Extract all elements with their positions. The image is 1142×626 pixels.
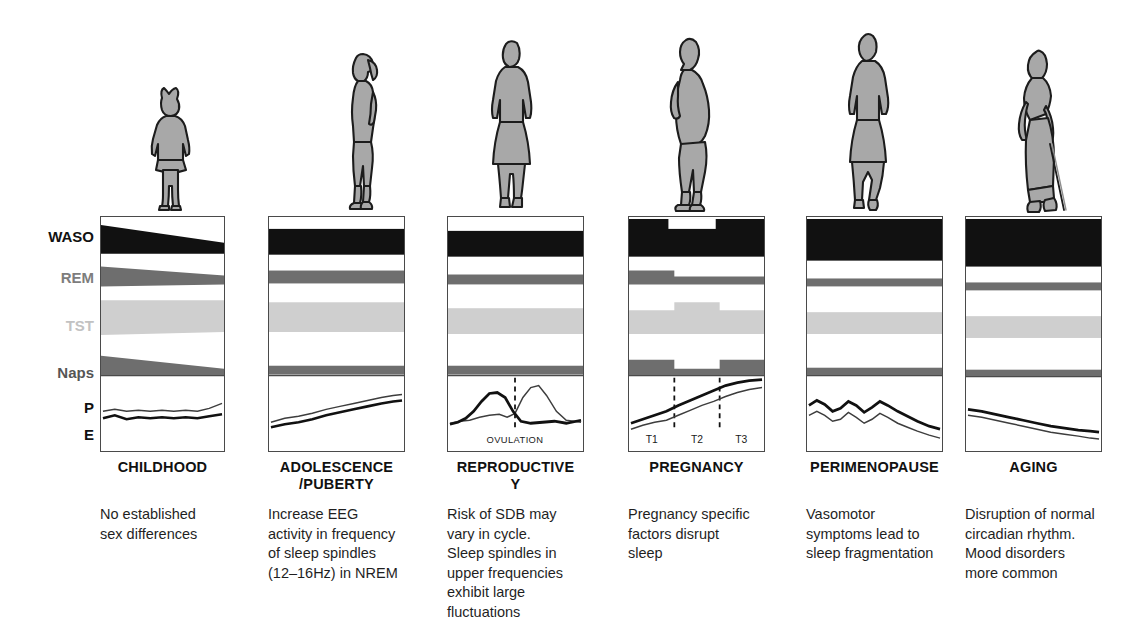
row-label-naps: Naps	[16, 365, 94, 380]
stage-title-reproductive: REPRODUCTIVEY	[443, 459, 588, 493]
stage-caption-reproductive: Risk of SDB mayvary in cycle.Sleep spind…	[447, 505, 607, 622]
silhouette-mature-woman-walking	[832, 22, 904, 214]
band-naps	[269, 366, 404, 375]
band-rem	[966, 282, 1101, 290]
stage-caption-aging: Disruption of normalcircadian rhythm.Moo…	[965, 505, 1130, 583]
band-naps	[807, 368, 942, 376]
panel-adolescence	[268, 216, 405, 452]
band-tst	[966, 316, 1101, 338]
stage-caption-perimenopause: Vasomotorsymptoms lead tosleep fragmenta…	[806, 505, 966, 564]
silhouette-girl-child-dress	[136, 82, 206, 212]
panel-reproductive: OVULATION	[447, 216, 584, 452]
stage-title-pregnancy: PREGNANCY	[624, 459, 769, 476]
lifespan-sleep-figure: WASO REM TST Naps P E	[0, 0, 1142, 626]
panel-childhood	[100, 216, 225, 452]
band-naps	[101, 356, 224, 376]
band-tst	[448, 308, 583, 334]
curve-estrogen	[968, 415, 1099, 439]
panel-aging	[965, 216, 1102, 452]
annotation-t2: T2	[691, 434, 703, 445]
curve-progesterone	[631, 380, 762, 424]
band-waso	[966, 219, 1101, 267]
curve-progesterone	[103, 414, 222, 419]
silhouette-adult-woman-dress	[476, 30, 548, 212]
stage-title-perimenopause: PERIMENOPAUSE	[800, 459, 949, 476]
band-tst	[807, 312, 942, 334]
curve-progesterone	[809, 400, 940, 429]
panel-perimenopause	[806, 216, 943, 452]
curve-estrogen	[809, 411, 940, 438]
annotation-t3: T3	[735, 434, 747, 445]
annotation-ovulation: OVULATION	[487, 434, 544, 445]
stage-title-childhood: CHILDHOOD	[96, 459, 229, 476]
stage-title-aging: AGING	[961, 459, 1106, 476]
band-rem	[269, 271, 404, 284]
band-waso	[101, 225, 224, 254]
band-rem	[101, 267, 224, 287]
band-naps	[629, 360, 764, 376]
row-label-waso: WASO	[16, 229, 94, 244]
stage-caption-adolescence: Increase EEGactivity in frequencyof slee…	[268, 505, 428, 583]
stage-title-adolescence: ADOLESCENCE/PUBERTY	[264, 459, 409, 493]
silhouette-elderly-woman-cane	[1006, 40, 1082, 216]
curve-estrogen	[631, 388, 762, 430]
band-waso	[807, 219, 942, 261]
band-naps	[966, 370, 1101, 377]
stage-caption-pregnancy: Pregnancy specificfactors disruptsleep	[628, 505, 788, 564]
annotation-t1: T1	[646, 434, 658, 445]
band-naps	[448, 366, 583, 375]
band-tst	[629, 302, 764, 334]
silhouette-pregnant-woman-profile	[656, 26, 726, 214]
band-tst	[101, 300, 224, 335]
band-rem	[807, 278, 942, 286]
stage-caption-childhood: No establishedsex differences	[100, 505, 240, 544]
band-waso	[269, 229, 404, 255]
panel-pregnancy: T1 T2 T3	[628, 216, 765, 452]
curve-estrogen	[271, 394, 402, 422]
silhouette-teen-girl-profile	[330, 46, 392, 212]
band-tst	[269, 302, 404, 332]
row-label-rem: REM	[16, 270, 94, 285]
row-label-tst: TST	[16, 318, 94, 333]
curve-estrogen	[103, 403, 222, 411]
curve-progesterone	[271, 400, 402, 427]
band-rem	[448, 275, 583, 285]
row-label-progesterone: P	[16, 400, 94, 415]
row-label-estrogen: E	[16, 427, 94, 442]
band-waso	[448, 231, 583, 257]
band-waso-notch	[668, 219, 715, 229]
band-rem	[629, 271, 764, 285]
